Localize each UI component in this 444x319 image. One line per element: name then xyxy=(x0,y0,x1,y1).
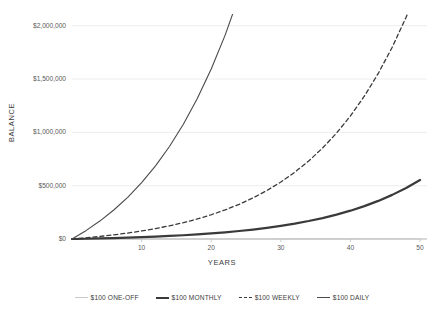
x-tick-label: 10 xyxy=(127,244,157,251)
series-line xyxy=(72,180,420,239)
x-tick-label: 40 xyxy=(335,244,365,251)
balance-growth-chart: BALANCE YEARS $0$500,000$1,000,000$1,500… xyxy=(0,0,444,319)
series-line xyxy=(72,0,420,239)
legend-swatch-icon xyxy=(156,297,169,299)
legend-label: $100 WEEKLY xyxy=(255,294,300,301)
legend-item[interactable]: $100 DAILY xyxy=(317,294,370,301)
chart-legend: $100 ONE-OFF$100 MONTHLY$100 WEEKLY$100 … xyxy=(0,294,444,301)
legend-item[interactable]: $100 MONTHLY xyxy=(156,294,222,301)
y-tick-label: $1,000,000 xyxy=(10,128,66,135)
x-tick-label: 30 xyxy=(266,244,296,251)
series-line xyxy=(72,0,420,239)
chart-plot-area xyxy=(0,0,444,319)
legend-swatch-icon xyxy=(239,297,252,298)
data-series xyxy=(72,0,420,239)
gridlines xyxy=(72,26,427,186)
y-tick-label: $500,000 xyxy=(10,182,66,189)
y-axis-title: BALANCE xyxy=(7,93,16,153)
x-tick-label: 50 xyxy=(405,244,435,251)
legend-label: $100 MONTHLY xyxy=(172,294,222,301)
legend-label: $100 ONE-OFF xyxy=(91,294,139,301)
x-tick-label: 20 xyxy=(196,244,226,251)
y-tick-label: $2,000,000 xyxy=(10,22,66,29)
legend-swatch-icon xyxy=(317,297,330,298)
x-axis-title: YEARS xyxy=(0,258,444,267)
y-tick-label: $1,500,000 xyxy=(10,75,66,82)
legend-item[interactable]: $100 WEEKLY xyxy=(239,294,300,301)
legend-label: $100 DAILY xyxy=(333,294,370,301)
legend-swatch-icon xyxy=(75,297,88,298)
y-tick-label: $0 xyxy=(10,235,66,242)
legend-item[interactable]: $100 ONE-OFF xyxy=(75,294,139,301)
